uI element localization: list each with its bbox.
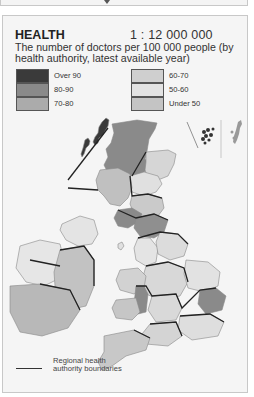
inset-shetland: [231, 120, 243, 144]
region-outer-hebrides: [81, 118, 109, 157]
region-tayside: [128, 172, 162, 196]
region-wales-south: [112, 298, 140, 320]
legend-item-under-50: Under 50: [131, 96, 200, 111]
region-strathclyde: [96, 168, 132, 206]
legend-item-50-60: 50-60: [131, 82, 188, 97]
legend-item-60-70: 60-70: [131, 68, 188, 83]
legend-label: 70-80: [54, 99, 73, 108]
legend-swatch: [131, 69, 164, 83]
legend-label: 50-60: [169, 85, 188, 94]
uk-ireland-map: [0, 110, 254, 397]
boundary-legend-label: Regional health authority boundaries: [53, 357, 123, 372]
chevron-down-icon[interactable]: [104, 0, 110, 4]
legend-label: Over 90: [54, 71, 81, 80]
map-scale: 1 : 12 000 000: [130, 28, 213, 42]
map-subtitle: The number of doctors per 100 000 people…: [15, 42, 245, 63]
region-north-west: [134, 238, 158, 266]
boundary-line: [68, 188, 98, 190]
region-east-anglia: [184, 260, 220, 292]
legend-swatch: [16, 97, 49, 111]
legend-item-80-90: 80-90: [16, 82, 73, 97]
region-northern-ireland: [60, 216, 98, 246]
region-ireland-south: [10, 284, 80, 336]
legend-label: 60-70: [169, 71, 188, 80]
legend-swatch: [131, 83, 164, 97]
legend-item-70-80: 70-80: [16, 96, 73, 111]
region-north-east-thames: [198, 288, 226, 314]
region-oxford: [148, 294, 182, 322]
previous-panel: [0, 0, 248, 6]
legend-label: Under 50: [169, 99, 200, 108]
legend-swatch: [16, 83, 49, 97]
legend-swatch: [16, 69, 49, 83]
legend-swatch: [131, 97, 164, 111]
legend-item-over-90: Over 90: [16, 68, 81, 83]
region-isle-of-man: [118, 242, 124, 250]
inset-orkney: [187, 122, 215, 148]
boundary-legend-line: [16, 368, 42, 369]
map-title: HEALTH: [15, 28, 65, 42]
region-yorkshire: [156, 232, 188, 260]
legend-label: 80-90: [54, 85, 73, 94]
